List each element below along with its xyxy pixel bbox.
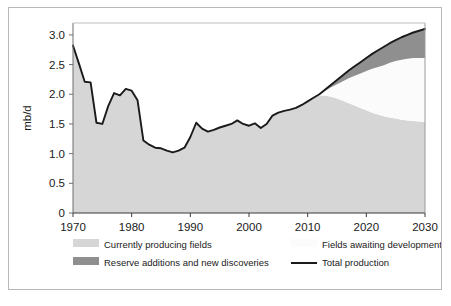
chart-legend: Currently producing fieldsFields awaitin… (73, 239, 441, 268)
legend-label-currently-producing-fields: Currently producing fields (104, 239, 212, 250)
x-tick-label: 1980 (119, 221, 145, 233)
x-axis-tick-labels: 1970198019902000201020202030 (60, 213, 438, 233)
x-tick-label: 2020 (354, 221, 380, 233)
legend-swatch-reserve-additions-and-new-discoveries (73, 257, 99, 265)
y-tick-label: 0.5 (49, 177, 65, 189)
figure-container: 00.51.01.52.02.53.0 19701980199020002010… (0, 0, 451, 306)
y-tick-label: 2.0 (49, 88, 65, 100)
y-tick-label: 3.0 (49, 29, 65, 41)
y-tick-label: 1.0 (49, 148, 65, 160)
legend-swatch-currently-producing-fields (73, 239, 99, 247)
production-outlook-chart: 00.51.01.52.02.53.0 19701980199020002010… (9, 8, 441, 289)
x-tick-label: 2030 (412, 221, 438, 233)
x-tick-label: 1990 (178, 221, 204, 233)
legend-label-total-production: Total production (322, 257, 389, 268)
y-tick-label: 1.5 (49, 118, 65, 130)
x-tick-label: 1970 (60, 221, 86, 233)
y-axis-tick-labels: 00.51.01.52.02.53.0 (49, 29, 73, 219)
legend-label-fields-awaiting-development: Fields awaiting development (322, 239, 441, 250)
y-axis-title: mb/d (21, 105, 33, 131)
x-tick-label: 2010 (295, 221, 321, 233)
figure-frame: 00.51.01.52.02.53.0 19701980199020002010… (8, 7, 442, 290)
x-tick-label: 2000 (236, 221, 262, 233)
legend-label-reserve-additions-and-new-discoveries: Reserve additions and new discoveries (104, 257, 269, 268)
y-tick-label: 0 (59, 207, 65, 219)
legend-swatch-fields-awaiting-development (291, 239, 317, 247)
y-tick-label: 2.5 (49, 59, 65, 71)
top-caption-crop (0, 0, 451, 6)
